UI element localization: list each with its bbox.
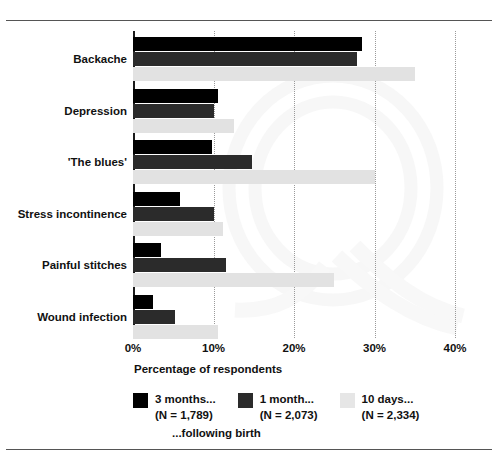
legend-swatch-icon: [133, 393, 148, 408]
bar: [133, 207, 214, 221]
x-tick-label: 30%: [363, 342, 386, 354]
category-label: Wound infection: [2, 311, 127, 323]
top-rule: [6, 20, 492, 21]
legend-swatch-icon: [238, 393, 253, 408]
bar: [133, 67, 415, 81]
category-label: Depression: [2, 105, 127, 117]
bar: [133, 89, 218, 103]
legend-footnote: ...following birth: [172, 427, 261, 439]
legend-swatch-icon: [340, 393, 355, 408]
category-label-list: Backache Depression 'The blues' Stress i…: [0, 31, 127, 338]
legend-n-value: (N = 2,073): [260, 408, 318, 424]
bar: [133, 37, 362, 51]
bar: [133, 325, 218, 339]
x-tick-label: 10%: [202, 342, 225, 354]
bar: [133, 52, 357, 66]
legend-item-1-month: 1 month... (N = 2,073): [238, 392, 318, 423]
legend-label: 1 month...: [260, 393, 314, 405]
bar: [133, 192, 180, 206]
bar: [133, 273, 334, 287]
bar: [133, 140, 212, 154]
bar: [133, 310, 175, 324]
category-label: Backache: [2, 53, 127, 65]
bar: [133, 155, 252, 169]
category-label: 'The blues': [2, 156, 127, 168]
bar: [133, 104, 214, 118]
bar: [133, 222, 223, 236]
chart-figure: Backache Depression 'The blues' Stress i…: [0, 0, 498, 462]
legend-label-group: 1 month... (N = 2,073): [260, 392, 318, 423]
legend-item-10-days: 10 days... (N = 2,334): [340, 392, 420, 423]
x-axis-title: Percentage of respondents: [134, 363, 282, 375]
chart-legend: 3 months... (N = 1,789) 1 month... (N = …: [133, 392, 419, 423]
bar: [133, 258, 226, 272]
x-tick-label: 20%: [282, 342, 305, 354]
bar: [133, 295, 153, 309]
legend-label-group: 3 months... (N = 1,789): [155, 392, 216, 423]
gridline-40: [455, 31, 457, 338]
legend-label: 10 days...: [362, 393, 414, 405]
bar: [133, 119, 234, 133]
bottom-rule: [6, 449, 492, 450]
x-tick-label: 40%: [443, 342, 466, 354]
bar: [133, 243, 161, 257]
bar: [133, 170, 375, 184]
legend-n-value: (N = 1,789): [155, 408, 216, 424]
plot-area: [133, 31, 455, 338]
x-axis-ticks: 0%10%20%30%40%: [133, 342, 455, 360]
x-tick-label: 0%: [125, 342, 142, 354]
legend-label-group: 10 days... (N = 2,334): [362, 392, 420, 423]
legend-label: 3 months...: [155, 393, 216, 405]
legend-item-3-months: 3 months... (N = 1,789): [133, 392, 216, 423]
legend-n-value: (N = 2,334): [362, 408, 420, 424]
category-label: Stress incontinence: [2, 208, 127, 220]
category-label: Painful stitches: [2, 259, 127, 271]
